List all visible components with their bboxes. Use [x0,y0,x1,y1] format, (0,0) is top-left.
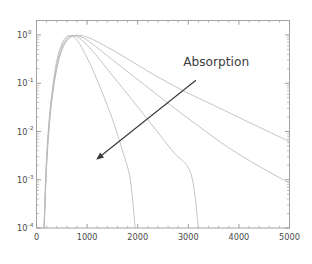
annotation-label: Absorption [183,55,249,69]
chart-figure: 10010-110-210-310-4 01000200030004000500… [0,0,312,264]
x-tick-label: 4000 [228,232,249,242]
y-tick-label: 10 [17,78,27,88]
x-tick-label: 3000 [178,232,199,242]
y-tick-label: 10 [17,175,27,185]
y-tick-label-exponent: -1 [28,77,33,83]
y-tick-label-exponent: 0 [28,29,32,35]
semilog-absorption-plot: 10010-110-210-310-4 01000200030004000500… [0,0,312,264]
x-tick-label: 0 [34,232,39,242]
y-tick-label-exponent: -2 [28,125,33,131]
y-tick-label-exponent: -4 [28,222,34,228]
y-tick-label-exponent: -3 [28,174,33,180]
x-tick-label: 1000 [77,232,98,242]
x-tick-label: 2000 [127,232,148,242]
y-tick-label: 10 [17,127,27,137]
figure-background [0,0,312,264]
x-tick-label: 5000 [279,232,300,242]
y-tick-label: 10 [17,223,27,233]
y-tick-label: 10 [17,30,27,40]
